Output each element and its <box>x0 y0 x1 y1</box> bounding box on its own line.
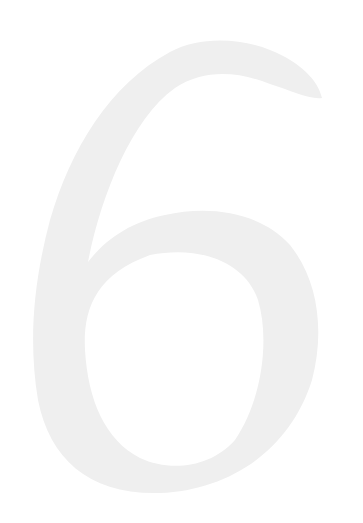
numeral-six-shape <box>0 0 363 523</box>
